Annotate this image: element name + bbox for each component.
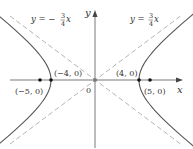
y-axis-arrow-icon bbox=[93, 10, 98, 17]
svg-text:3: 3 bbox=[61, 12, 65, 20]
hyperbola-diagram: y x 0 y = − 3 4 x y = 3 4 x (−4, 0) (4, … bbox=[0, 0, 193, 149]
svg-text:3: 3 bbox=[149, 12, 153, 20]
hyperbola-right-branch bbox=[139, 0, 193, 149]
y-axis-label: y bbox=[84, 7, 91, 18]
point-label-vertex-right: (4, 0) bbox=[116, 69, 138, 78]
asymptote-positive-slope bbox=[10, 15, 182, 144]
x-axis-arrow-icon bbox=[176, 78, 183, 83]
point-vertex-right bbox=[137, 78, 141, 82]
asymptote-label-positive: y = 3 4 x bbox=[129, 12, 159, 28]
point-label-focus-right: (5, 0) bbox=[144, 87, 166, 96]
svg-text:x: x bbox=[66, 14, 71, 24]
point-vertex-left bbox=[49, 78, 53, 82]
point-focus-right bbox=[148, 78, 152, 82]
point-label-focus-left: (−5, 0) bbox=[15, 87, 43, 96]
point-focus-left bbox=[38, 78, 42, 82]
origin-label: 0 bbox=[86, 86, 91, 95]
svg-text:x: x bbox=[154, 14, 159, 24]
svg-text:4: 4 bbox=[61, 20, 65, 28]
svg-text:y = −: y = − bbox=[30, 14, 55, 24]
point-label-vertex-left: (−4, 0) bbox=[54, 69, 82, 78]
asymptote-negative-slope bbox=[10, 16, 182, 145]
svg-text:y =: y = bbox=[129, 14, 145, 24]
svg-text:4: 4 bbox=[149, 20, 153, 28]
x-axis-label: x bbox=[177, 84, 183, 95]
asymptote-label-negative: y = − 3 4 x bbox=[30, 12, 71, 28]
